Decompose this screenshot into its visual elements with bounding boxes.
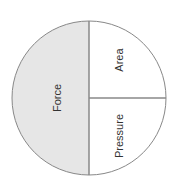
area-segment (89, 21, 166, 98)
pressure-segment (89, 98, 166, 175)
force-label: Force (51, 84, 63, 112)
formula-circle-diagram: Force Area Pressure (0, 0, 173, 189)
area-label: Area (113, 48, 125, 72)
pressure-label: Pressure (113, 114, 125, 158)
